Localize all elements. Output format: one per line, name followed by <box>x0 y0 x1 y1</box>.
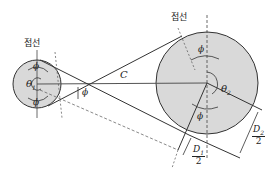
d2-sub: 2 <box>260 129 264 136</box>
d1-dimension <box>183 138 191 155</box>
theta2-label: θ2 <box>221 84 231 96</box>
theta1-sub: 1 <box>32 84 36 91</box>
lower-dashed-line <box>40 90 178 150</box>
phi-label-small-top: ϕ <box>33 62 39 71</box>
center-distance-label: C <box>120 70 128 80</box>
theta1-label: θ1 <box>26 79 36 91</box>
d1-den: 2 <box>192 157 205 166</box>
phi-label-large-bottom: ϕ <box>197 112 203 121</box>
phi-label-crossing: ϕ <box>82 88 88 97</box>
tangent-label-left: 접선 <box>24 39 40 48</box>
belt-pulley-diagram <box>0 0 277 177</box>
d1-half-label: D12 <box>192 145 205 166</box>
d1-sub: 1 <box>200 149 204 156</box>
d2-half-label: D22 <box>252 125 265 146</box>
phi-label-small-bottom: ϕ <box>33 98 39 107</box>
phi-label-large-top: ϕ <box>198 45 204 54</box>
theta2-sub: 2 <box>227 89 231 96</box>
tangent-label-right: 접선 <box>171 13 187 22</box>
lower-dashed-vertical <box>172 150 178 168</box>
d2-den: 2 <box>252 137 265 146</box>
